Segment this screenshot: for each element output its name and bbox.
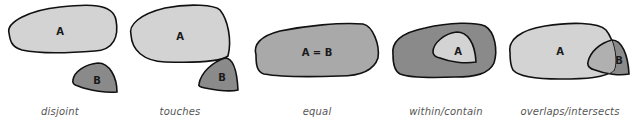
panel-overlaps: A B overlaps/intersects [500, 0, 630, 129]
panel-disjoint: A B disjoint [0, 0, 125, 129]
caption-disjoint: disjoint [41, 106, 79, 117]
caption-overlaps: overlaps/intersects [520, 106, 619, 117]
caption-equal: equal [303, 106, 332, 117]
panel-touches: A B touches [125, 0, 250, 129]
panel-equal: A = B equal [250, 0, 385, 129]
label-b: B [615, 55, 623, 66]
within-figure: A [385, 0, 505, 105]
label-a-equals-b: A = B [302, 47, 333, 58]
panel-within: A within/contain [385, 0, 505, 129]
disjoint-figure: A B [0, 0, 125, 105]
label-a: A [556, 46, 564, 57]
overlaps-figure: A B [500, 0, 630, 105]
label-a: A [454, 46, 462, 57]
equal-figure: A = B [250, 0, 385, 105]
label-b: B [218, 72, 226, 83]
label-a: A [176, 31, 184, 42]
caption-within: within/contain [409, 106, 483, 117]
label-a: A [56, 26, 64, 37]
touches-figure: A B [125, 0, 250, 105]
caption-touches: touches [160, 106, 201, 117]
label-b: B [93, 75, 101, 86]
